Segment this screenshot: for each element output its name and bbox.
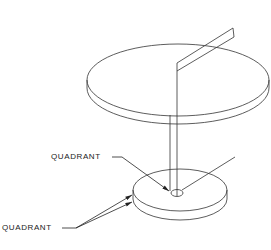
label-quadrant-lower: QUADRANT xyxy=(2,223,52,232)
leader-lower-a xyxy=(62,195,132,228)
isometric-diagram xyxy=(0,0,271,250)
upper-disc-top xyxy=(87,44,269,116)
leader-lower-b xyxy=(76,202,132,228)
label-quadrant-upper: QUADRANT xyxy=(51,152,101,161)
leader-upper xyxy=(112,157,169,191)
upper-disc-bottom-rim xyxy=(87,80,269,124)
axis-line xyxy=(182,157,235,190)
